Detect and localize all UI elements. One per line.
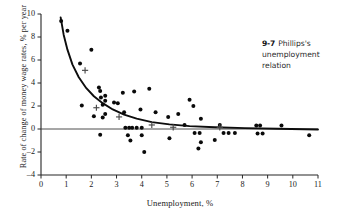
data-point	[199, 140, 203, 144]
x-tick-label: 1	[57, 180, 75, 189]
data-point	[116, 101, 120, 105]
fitted-curve	[61, 17, 318, 129]
x-tick-label: 6	[183, 180, 201, 189]
data-point	[213, 138, 217, 142]
plus-markers	[82, 67, 223, 130]
figure-phillips-curve: –4–20246810 01234567891011 Rate of chang…	[0, 0, 344, 214]
data-point	[135, 126, 139, 130]
data-point	[191, 104, 195, 108]
data-point	[258, 124, 262, 128]
x-tick-label: 9	[259, 180, 277, 189]
data-point	[254, 124, 258, 128]
data-point	[167, 136, 171, 140]
data-point	[166, 115, 170, 119]
data-point	[140, 126, 144, 130]
x-tick-label: 5	[158, 180, 176, 189]
data-point	[176, 112, 180, 116]
data-point	[233, 131, 237, 135]
figure-caption-number: 9-7	[262, 39, 275, 48]
x-tick-label: 0	[32, 180, 50, 189]
data-point	[147, 87, 151, 91]
data-point	[121, 91, 125, 95]
data-point	[78, 61, 82, 65]
data-point	[199, 117, 203, 121]
data-point	[99, 95, 103, 99]
data-point	[103, 94, 107, 98]
data-point	[101, 116, 105, 120]
data-point	[112, 101, 116, 105]
data-point	[130, 126, 134, 130]
data-point	[183, 123, 187, 127]
data-point	[128, 139, 132, 143]
data-point	[140, 133, 144, 137]
data-point	[103, 112, 107, 116]
data-point	[89, 48, 93, 52]
data-point	[101, 103, 105, 107]
data-point	[126, 133, 130, 137]
data-point	[198, 131, 202, 135]
data-point	[154, 110, 158, 114]
data-point	[98, 133, 102, 137]
fitted-curve-path	[61, 17, 318, 129]
plus-marker	[116, 114, 122, 120]
data-point	[92, 114, 96, 118]
data-point	[142, 150, 146, 154]
x-tick-label: 3	[108, 180, 126, 189]
x-tick-label: 7	[208, 180, 226, 189]
x-tick-label: 8	[233, 180, 251, 189]
data-point	[59, 19, 63, 23]
x-tick-label: 11	[309, 180, 327, 189]
data-point	[279, 124, 283, 128]
data-point	[193, 131, 197, 135]
data-point	[123, 126, 127, 130]
data-point	[132, 90, 136, 94]
data-point	[98, 89, 102, 93]
plus-marker	[82, 67, 88, 73]
data-point	[80, 103, 84, 107]
x-axis-title: Unemployment, %	[41, 198, 319, 208]
data-point	[227, 131, 231, 135]
data-point	[261, 132, 265, 136]
data-point	[307, 133, 311, 137]
data-point	[222, 131, 226, 135]
data-point	[97, 86, 101, 90]
data-point	[122, 110, 126, 114]
figure-caption: 9-7Phillips's unemployment relation	[262, 38, 344, 71]
data-point	[188, 98, 192, 102]
x-tick-label: 2	[82, 180, 100, 189]
data-point	[196, 147, 200, 151]
x-tick-label: 10	[284, 180, 302, 189]
plus-marker	[93, 105, 99, 111]
data-point	[256, 132, 260, 136]
data-point	[65, 29, 69, 33]
x-tick-label: 4	[133, 180, 151, 189]
y-axis-title: Rate of change of money wage rates, % pe…	[19, 2, 28, 172]
data-point	[138, 107, 142, 111]
data-point	[103, 99, 107, 103]
